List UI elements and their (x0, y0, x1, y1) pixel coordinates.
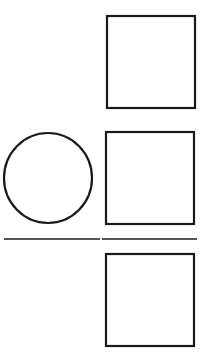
square-bottom-right (106, 254, 194, 346)
square-middle-right (106, 132, 194, 224)
circle-middle-left (4, 133, 92, 223)
square-top-right (107, 16, 195, 108)
shape-diagram (0, 0, 208, 353)
